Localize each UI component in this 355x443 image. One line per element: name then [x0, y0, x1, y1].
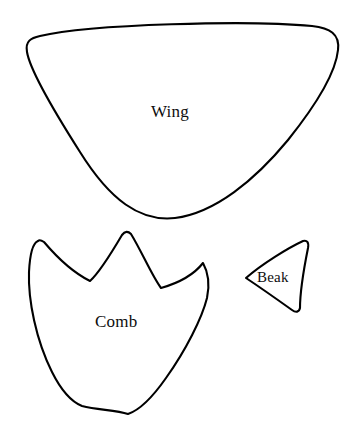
- beak-label: Beak: [257, 270, 289, 285]
- pattern-shapes-canvas: [0, 0, 355, 443]
- pattern-sheet: Wing Comb Beak: [0, 0, 355, 443]
- wing-label: Wing: [151, 103, 189, 120]
- comb-label: Comb: [95, 313, 137, 330]
